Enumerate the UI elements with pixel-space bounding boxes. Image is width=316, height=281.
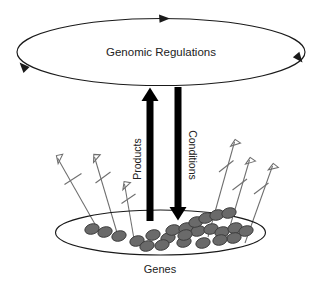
gene-dot — [145, 228, 162, 242]
diagram-svg: Genomic Regulations — [0, 0, 316, 281]
conditions-arrow-shaft — [175, 87, 182, 207]
products-flow-arrow: Products — [131, 88, 159, 222]
products-arrow-shaft — [147, 98, 154, 221]
conditions-flow-arrow: Conditions — [170, 87, 200, 221]
outward-arrow-shaft — [95, 157, 119, 236]
gene-dot — [111, 229, 128, 243]
outward-arrow — [54, 153, 100, 233]
products-label: Products — [131, 138, 143, 179]
genomic-regulations-label: Genomic Regulations — [106, 46, 216, 58]
outward-arrow-head-icon — [231, 139, 241, 149]
outward-arrow-tick — [233, 179, 248, 190]
genes-label: Genes — [144, 263, 177, 275]
outward-arrow-head-icon — [122, 181, 132, 190]
outward-arrow — [122, 181, 136, 239]
outward-arrow-tick — [122, 194, 136, 204]
outward-arrow-head-icon — [268, 163, 279, 173]
outward-arrow-tick — [96, 172, 111, 183]
outward-arrow-head-icon — [91, 153, 102, 163]
products-arrowhead-icon — [142, 88, 159, 102]
figure-canvas: Genomic Regulations — [0, 0, 316, 281]
outward-arrow-tick — [254, 183, 269, 194]
conditions-arrowhead-icon — [170, 207, 187, 221]
conditions-label: Conditions — [187, 130, 199, 180]
genomic-regulations-node: Genomic Regulations — [16, 14, 305, 85]
genes-node: Genes — [56, 206, 266, 275]
cycle-arrowhead-top-icon — [159, 14, 170, 22]
outward-arrow-head-icon — [246, 157, 257, 167]
gene-dot — [195, 236, 212, 250]
outward-arrow-shaft — [58, 158, 101, 233]
cycle-arrowhead-right-icon — [293, 52, 306, 66]
